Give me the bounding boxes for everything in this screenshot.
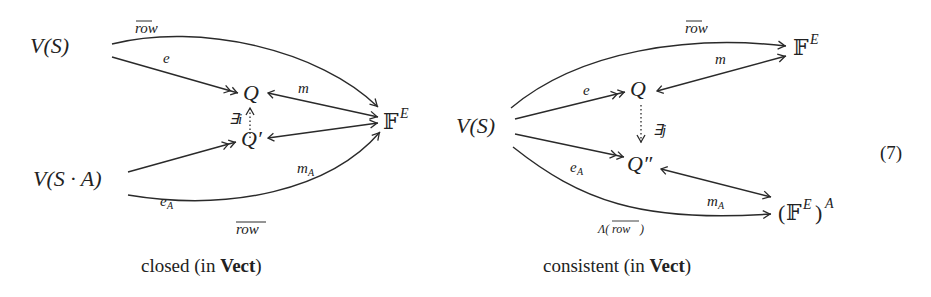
svg-text:row: row xyxy=(612,222,630,236)
svg-text:m: m xyxy=(297,160,308,176)
node-q-prime: Q′ xyxy=(241,126,263,151)
svg-text:𝔽: 𝔽 xyxy=(786,200,802,225)
label-row-top: row xyxy=(135,20,158,36)
label-m-a: m A xyxy=(297,160,315,178)
svg-text:e: e xyxy=(160,193,167,209)
svg-text:row: row xyxy=(135,20,158,36)
node-v-s: V(S) xyxy=(456,113,495,138)
edge-e xyxy=(515,92,625,119)
svg-text:): ) xyxy=(639,222,644,236)
svg-text:𝔽: 𝔽 xyxy=(793,35,809,60)
node-f-e-a: ( 𝔽 E ) A xyxy=(778,196,834,225)
label-e-a: e A xyxy=(570,159,584,177)
label-lambda-row: Λ( row ) xyxy=(597,221,644,236)
edge-e-a xyxy=(515,134,624,157)
edge-e-a xyxy=(128,142,236,172)
svg-text:m: m xyxy=(707,193,718,209)
svg-text:E: E xyxy=(809,32,819,47)
label-m: m xyxy=(715,51,726,67)
node-q: Q xyxy=(243,80,259,105)
node-v-s: V(S) xyxy=(30,33,69,58)
caption-consistent: consistent (in Vect) xyxy=(543,255,691,277)
svg-text:row: row xyxy=(236,221,259,237)
svg-text:A: A xyxy=(717,200,725,211)
node-f-e: 𝔽 E xyxy=(793,32,819,60)
label-row-top: row xyxy=(685,20,708,36)
diagram-consistent: V(S) Q Q″ 𝔽 E ( 𝔽 E ) A row m e ∃j xyxy=(456,20,834,236)
edge-m xyxy=(268,93,378,117)
svg-text:A: A xyxy=(824,196,834,211)
label-exists-i: ∃i xyxy=(229,111,242,127)
svg-text:A: A xyxy=(576,166,584,177)
node-q-double-prime: Q″ xyxy=(627,151,653,176)
svg-text:𝔽: 𝔽 xyxy=(383,109,399,134)
svg-text:e: e xyxy=(570,159,577,175)
equation-number: (7) xyxy=(880,142,902,164)
svg-text:): ) xyxy=(815,200,822,225)
commutative-diagrams: V(S) Q Q′ V(S · A) 𝔽 E row e m ∃i m A e … xyxy=(0,0,931,297)
svg-text:A: A xyxy=(166,200,174,211)
svg-text:row: row xyxy=(685,20,708,36)
label-m: m xyxy=(298,80,309,96)
node-f-e: 𝔽 E xyxy=(383,106,409,134)
label-e-a: e A xyxy=(160,193,174,211)
edge-e xyxy=(112,57,238,93)
label-row-bottom: row xyxy=(236,221,266,237)
edge-m-a xyxy=(268,123,378,138)
node-v-s-a: V(S · A) xyxy=(33,166,102,191)
label-m-a: m A xyxy=(707,193,725,211)
label-exists-j: ∃j xyxy=(653,122,666,138)
label-e: e xyxy=(163,50,170,66)
label-e: e xyxy=(583,82,590,98)
svg-text:Λ(: Λ( xyxy=(597,222,610,236)
svg-text:A: A xyxy=(307,167,315,178)
svg-text:E: E xyxy=(802,197,812,212)
caption-closed: closed (in Vect) xyxy=(141,255,262,277)
svg-text:(: ( xyxy=(778,200,785,225)
edge-row-top xyxy=(511,43,786,108)
svg-text:E: E xyxy=(399,106,409,121)
node-q: Q xyxy=(630,76,646,101)
diagram-closed: V(S) Q Q′ V(S · A) 𝔽 E row e m ∃i m A e … xyxy=(30,20,409,237)
